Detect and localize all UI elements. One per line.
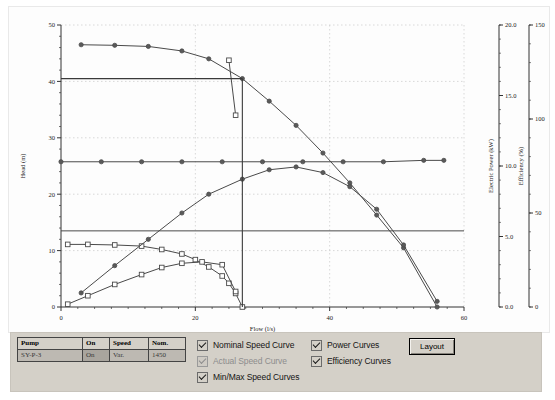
data-point-marker xyxy=(146,44,150,48)
chart-panel: 01020304050Head (m)0204060Flow (l/s)0.05… xyxy=(8,6,550,333)
checkbox-icon[interactable] xyxy=(197,340,208,351)
efficiency-tick-label: 150 xyxy=(535,21,545,28)
power-tick-label: 20.0 xyxy=(505,21,516,28)
data-point-marker xyxy=(65,302,70,307)
data-point-marker xyxy=(220,274,225,279)
pump-curve-window: 01020304050Head (m)0204060Flow (l/s)0.05… xyxy=(0,0,555,400)
series-line xyxy=(68,244,243,307)
data-point-marker xyxy=(159,265,164,270)
column-header-on: On xyxy=(83,338,110,350)
checkbox-label: Actual Speed Curve xyxy=(213,356,287,366)
power-axis-label: Electric Power (kW) xyxy=(487,139,495,193)
grid-lines xyxy=(61,25,464,307)
data-point-marker xyxy=(99,160,103,164)
power-tick-label: 15.0 xyxy=(505,92,516,99)
data-point-marker xyxy=(159,247,164,252)
data-point-marker xyxy=(294,123,298,127)
data-point-marker xyxy=(401,243,405,247)
y-tick-label: 20 xyxy=(49,191,56,198)
data-point-marker xyxy=(112,282,117,287)
series-line xyxy=(81,45,437,307)
checkbox-label: Nominal Speed Curve xyxy=(213,340,294,350)
data-point-marker xyxy=(180,252,185,257)
series-line xyxy=(229,60,236,115)
data-point-marker xyxy=(260,160,264,164)
layout-button[interactable]: Layout xyxy=(409,338,455,355)
data-point-marker xyxy=(200,260,205,265)
data-point-marker xyxy=(180,211,184,215)
power-tick-label: 5.0 xyxy=(505,233,513,240)
control-bar: Pump On Speed Nom. SY-P-3 On Var. 1450 N… xyxy=(10,332,542,392)
data-point-marker xyxy=(435,305,439,309)
data-point-marker xyxy=(233,289,238,294)
data-point-marker xyxy=(207,57,211,61)
series-line xyxy=(81,167,437,301)
checkbox-actual-speed-curve: Actual Speed Curve xyxy=(197,354,299,368)
data-point-marker xyxy=(180,160,184,164)
y-axis-power-ticks: 0.05.010.015.020.0 xyxy=(499,21,516,310)
data-point-marker xyxy=(267,168,271,172)
data-point-marker xyxy=(206,265,211,270)
data-point-marker xyxy=(86,293,91,298)
data-point-marker xyxy=(348,185,352,189)
series-4 xyxy=(59,158,446,164)
efficiency-tick-label: 100 xyxy=(535,115,545,122)
y-tick-label: 10 xyxy=(49,247,56,254)
column-header-pump: Pump xyxy=(18,338,83,350)
table-row[interactable]: SY-P-3 On Var. 1450 xyxy=(18,350,186,362)
data-point-marker xyxy=(422,158,426,162)
pump-table[interactable]: Pump On Speed Nom. SY-P-3 On Var. 1450 xyxy=(17,337,186,362)
data-point-marker xyxy=(220,262,225,267)
pump-performance-chart: 01020304050Head (m)0204060Flow (l/s)0.05… xyxy=(9,7,549,332)
data-point-marker xyxy=(442,158,446,162)
checkbox-efficiency-curves[interactable]: Efficiency Curves xyxy=(311,354,391,368)
checkbox-minmax-speed-curves[interactable]: Min/Max Speed Curves xyxy=(197,370,299,384)
column-header-nom: Nom. xyxy=(149,338,186,350)
data-point-marker xyxy=(180,49,184,53)
data-point-marker xyxy=(301,160,305,164)
data-point-marker xyxy=(59,160,63,164)
data-point-marker xyxy=(375,207,379,211)
series-5 xyxy=(65,260,238,307)
cell-on-state: On xyxy=(83,350,110,362)
data-point-marker xyxy=(65,242,70,247)
table-header-row: Pump On Speed Nom. xyxy=(18,338,186,350)
series-6 xyxy=(227,58,238,118)
y-axis-label: Head (m) xyxy=(19,154,27,179)
data-point-marker xyxy=(233,113,238,118)
data-point-marker xyxy=(79,291,83,295)
data-point-marker xyxy=(435,299,439,303)
x-tick-label: 0 xyxy=(59,314,62,321)
y-tick-label: 40 xyxy=(49,78,56,85)
x-tick-label: 40 xyxy=(326,314,333,321)
checkbox-icon[interactable] xyxy=(311,340,322,351)
series-1 xyxy=(65,242,244,309)
checkbox-icon[interactable] xyxy=(197,372,208,383)
data-point-marker xyxy=(139,272,144,277)
x-axis-label: Flow (l/s) xyxy=(250,325,275,332)
curve-toggle-group-left: Nominal Speed Curve Actual Speed Curve M… xyxy=(197,338,299,386)
data-point-marker xyxy=(140,160,144,164)
operating-point-crosshair xyxy=(61,79,242,307)
data-point-marker xyxy=(112,243,117,248)
series-line xyxy=(61,160,444,161)
data-point-marker xyxy=(86,242,91,247)
data-point-marker xyxy=(294,165,298,169)
data-point-marker xyxy=(207,192,211,196)
data-point-marker xyxy=(381,160,385,164)
checkbox-icon[interactable] xyxy=(311,356,322,367)
checkbox-nominal-speed-curve[interactable]: Nominal Speed Curve xyxy=(197,338,299,352)
data-point-marker xyxy=(193,257,198,262)
power-tick-label: 10.0 xyxy=(505,162,516,169)
cell-pump-id: SY-P-3 xyxy=(18,350,83,362)
checkbox-icon xyxy=(197,356,208,367)
checkbox-label: Efficiency Curves xyxy=(327,356,391,366)
data-point-marker xyxy=(79,43,83,47)
data-point-marker xyxy=(113,43,117,47)
curve-toggle-group-right: Power Curves Efficiency Curves xyxy=(311,338,391,370)
y-axis-head-ticks: 01020304050 xyxy=(49,21,62,310)
efficiency-tick-label: 50 xyxy=(535,209,542,216)
checkbox-label: Min/Max Speed Curves xyxy=(213,372,299,382)
checkbox-power-curves[interactable]: Power Curves xyxy=(311,338,391,352)
data-point-marker xyxy=(341,160,345,164)
